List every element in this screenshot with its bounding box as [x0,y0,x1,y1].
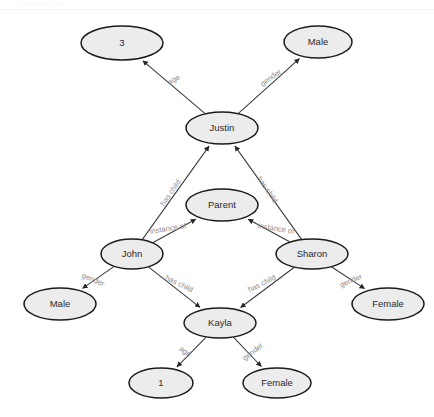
graph-node[interactable]: Justin [186,112,258,144]
graph-node[interactable]: 3 [81,26,163,60]
graph-node[interactable]: 1 [129,368,193,398]
graph-node[interactable]: Male [24,288,96,320]
edge-label: gender [81,271,107,289]
edge-label: age [178,344,194,359]
node-label: John [122,248,143,259]
node-label: Justin [210,122,235,133]
graph-node[interactable]: Kayla [184,308,256,338]
graph-node[interactable]: Male [284,26,352,58]
node-label: Kayla [208,317,232,328]
node-label: Sharon [297,248,328,259]
node-label: Male [308,36,329,47]
graph-node[interactable]: Sharon [276,239,348,269]
nodes-layer: 3MaleJustinParentJohnSharonMaleFemaleKay… [24,26,424,398]
edge-label: age [166,72,181,86]
node-label: 3 [119,37,124,48]
node-label: Parent [208,199,236,210]
node-label: Female [372,298,404,309]
knowledge-graph: 3MaleJustinParentJohnSharonMaleFemaleKay… [0,0,434,417]
node-label: 1 [158,377,163,388]
edge-label: has child [158,178,183,208]
graph-node[interactable]: John [101,239,163,269]
graph-node[interactable]: Female [243,368,311,398]
edge-label: has child [255,175,280,205]
graph-edge [238,59,299,114]
edge-label: gender [258,67,283,88]
graph-edge [143,61,205,114]
graph-node[interactable]: Female [352,288,424,320]
diagram-page: ... ........... . ...... 3MaleJustinPare… [0,0,434,417]
graph-node[interactable]: Parent [186,189,258,221]
node-label: Male [50,298,71,309]
edge-label: gender [241,341,266,363]
node-label: Female [261,377,293,388]
